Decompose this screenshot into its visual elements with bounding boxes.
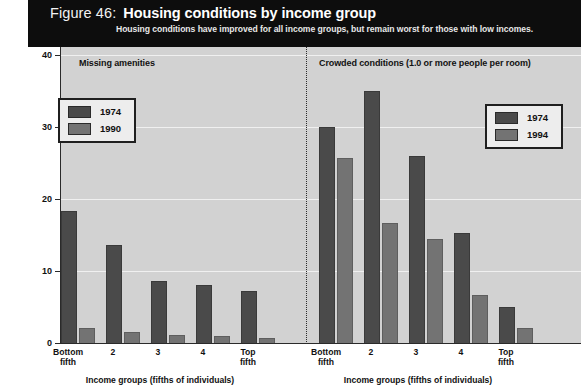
bar-crowded-1994-bottom-fifth bbox=[337, 158, 353, 343]
x-tick-left-3: 3 bbox=[134, 348, 182, 358]
figure-housing-conditions: Figure 46: Housing conditions by income … bbox=[0, 0, 581, 392]
gridline-40 bbox=[61, 55, 581, 56]
legend-swatch-1990-icon bbox=[68, 123, 91, 135]
legend-row-1974: 1974 bbox=[68, 106, 125, 118]
bar-crowded-1974-2 bbox=[364, 91, 380, 343]
x-tick-right-3: 3 bbox=[392, 348, 440, 358]
bar-crowded-1994-4 bbox=[472, 295, 488, 343]
y-tick-label-0: 0 bbox=[26, 338, 52, 348]
x-tick-left-4: 4 bbox=[179, 348, 227, 358]
x-axis-title-left: Income groups (fifths of individuals) bbox=[36, 375, 284, 385]
legend-row-1990: 1990 bbox=[68, 123, 125, 135]
y-tick-label-20: 20 bbox=[26, 194, 52, 204]
legend-crowded-conditions: 1974 1994 bbox=[485, 104, 563, 149]
plot-inner: Missing amenities Crowded conditions (1.… bbox=[61, 47, 581, 344]
legend-swatch-1974-right-icon bbox=[495, 112, 518, 124]
bar-missing-1974-top-fifth bbox=[241, 291, 257, 343]
y-tick-label-10: 10 bbox=[26, 266, 52, 276]
x-tick-right-2: 2 bbox=[347, 348, 395, 358]
bar-crowded-1974-top-fifth bbox=[499, 307, 515, 343]
legend-label-1994: 1994 bbox=[527, 130, 548, 140]
bar-missing-1974-4 bbox=[196, 285, 212, 343]
legend-missing-amenities: 1974 1990 bbox=[58, 98, 136, 143]
bar-missing-1990-2 bbox=[124, 332, 140, 343]
x-axis-baseline bbox=[61, 343, 581, 344]
bar-crowded-1994-3 bbox=[427, 239, 443, 343]
panel-caption-missing-amenities: Missing amenities bbox=[79, 58, 155, 68]
panel-caption-crowded-conditions: Crowded conditions (1.0 or more people p… bbox=[319, 58, 531, 68]
bar-missing-1974-bottom-fifth bbox=[61, 211, 77, 343]
x-tick-left-bottom-fifth: Bottom fifth bbox=[44, 348, 92, 367]
plot-area: Missing amenities Crowded conditions (1.… bbox=[60, 47, 581, 344]
legend-label-1974-right: 1974 bbox=[527, 113, 548, 123]
y-tick-label-40: 40 bbox=[26, 50, 52, 60]
bar-missing-1974-3 bbox=[151, 281, 167, 343]
figure-subtitle: Housing conditions have improved for all… bbox=[116, 24, 581, 34]
legend-swatch-1994-icon bbox=[495, 129, 518, 141]
y-tick-label-30: 30 bbox=[26, 122, 52, 132]
x-tick-right-4: 4 bbox=[437, 348, 485, 358]
legend-row-1974-right: 1974 bbox=[495, 112, 552, 124]
x-tick-right-top-fifth: Top fifth bbox=[482, 348, 530, 367]
bar-crowded-1994-2 bbox=[382, 223, 398, 343]
bar-missing-1990-3 bbox=[169, 335, 185, 343]
legend-swatch-1974-icon bbox=[68, 106, 91, 118]
figure-title: Housing conditions by income group bbox=[123, 5, 376, 21]
bar-missing-1990-bottom-fifth bbox=[79, 328, 95, 343]
bar-crowded-1974-bottom-fifth bbox=[319, 127, 335, 343]
figure-number: Figure 46: bbox=[50, 5, 116, 21]
bar-crowded-1994-top-fifth bbox=[517, 328, 533, 343]
x-tick-left-top-fifth: Top fifth bbox=[224, 348, 272, 367]
x-tick-left-2: 2 bbox=[89, 348, 137, 358]
bar-missing-1974-2 bbox=[106, 245, 122, 343]
x-axis-title-right: Income groups (fifths of individuals) bbox=[294, 375, 542, 385]
panel-divider bbox=[306, 47, 307, 344]
bar-crowded-1974-4 bbox=[454, 233, 470, 343]
bar-missing-1990-4 bbox=[214, 336, 230, 343]
x-tick-right-bottom-fifth: Bottom fifth bbox=[302, 348, 350, 367]
title-row: Figure 46: Housing conditions by income … bbox=[50, 5, 581, 21]
legend-row-1994: 1994 bbox=[495, 129, 552, 141]
legend-label-1990: 1990 bbox=[100, 124, 121, 134]
legend-label-1974: 1974 bbox=[100, 107, 121, 117]
figure-title-banner: Figure 46: Housing conditions by income … bbox=[28, 0, 581, 47]
bar-crowded-1974-3 bbox=[409, 156, 425, 343]
